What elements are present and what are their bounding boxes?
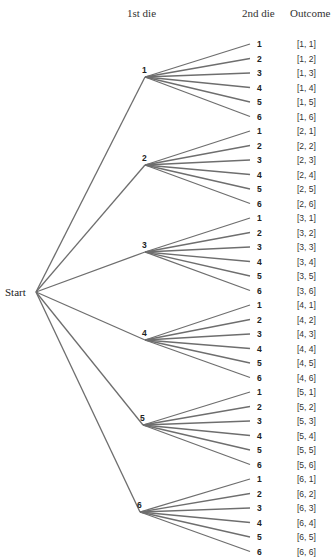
second-die-leaf: 3: [257, 329, 262, 339]
outcome-label: [2, 2]: [297, 141, 316, 151]
tree-diagram: [0, 0, 333, 557]
second-die-leaf: 6: [257, 547, 262, 557]
second-die-leaf: 4: [257, 83, 262, 93]
second-die-leaf: 4: [257, 431, 262, 441]
first-die-node-5: 5: [140, 413, 145, 423]
outcome-label: [5, 3]: [297, 416, 316, 426]
outcome-label: [2, 5]: [297, 184, 316, 194]
branch-line: [145, 340, 250, 349]
outcome-label: [2, 6]: [297, 199, 316, 209]
first-die-node-6: 6: [137, 500, 142, 510]
second-die-leaf: 1: [257, 387, 262, 397]
second-die-leaf: 5: [257, 97, 262, 107]
second-die-leaf: 4: [257, 257, 262, 267]
branch-line: [145, 340, 250, 378]
branch-line: [145, 77, 250, 102]
second-die-leaf: 2: [257, 402, 262, 412]
second-die-leaf: 3: [257, 155, 262, 165]
branch-line: [145, 340, 250, 363]
first-die-node-4: 4: [142, 328, 147, 338]
outcome-label: [2, 4]: [297, 170, 316, 180]
branch-line: [145, 252, 250, 276]
second-die-leaf: 2: [257, 315, 262, 325]
outcome-label: [3, 4]: [297, 257, 316, 267]
first-die-node-1: 1: [142, 65, 147, 75]
outcome-label: [1, 4]: [297, 83, 316, 93]
second-die-leaf: 2: [257, 228, 262, 238]
branch-line: [36, 292, 145, 340]
second-die-leaf: 2: [257, 141, 262, 151]
outcome-label: [5, 2]: [297, 402, 316, 412]
outcome-label: [4, 5]: [297, 358, 316, 368]
branch-line: [145, 252, 250, 262]
outcome-label: [5, 4]: [297, 431, 316, 441]
branch-line: [143, 392, 250, 425]
second-die-leaf: 6: [257, 112, 262, 122]
outcome-label: [4, 3]: [297, 329, 316, 339]
second-die-leaf: 1: [257, 474, 262, 484]
outcome-label: [4, 2]: [297, 315, 316, 325]
second-die-leaf: 6: [257, 460, 262, 470]
second-die-leaf: 1: [257, 126, 262, 136]
outcome-label: [3, 3]: [297, 242, 316, 252]
second-die-leaf: 1: [257, 39, 262, 49]
second-die-leaf: 6: [257, 286, 262, 296]
second-die-leaf: 1: [257, 300, 262, 310]
outcome-label: [6, 4]: [297, 518, 316, 528]
first-die-node-3: 3: [142, 240, 147, 250]
outcome-label: [4, 1]: [297, 300, 316, 310]
outcome-label: [3, 2]: [297, 228, 316, 238]
second-die-leaf: 5: [257, 358, 262, 368]
outcome-label: [6, 2]: [297, 489, 316, 499]
outcome-label: [1, 6]: [297, 112, 316, 122]
second-die-leaf: 2: [257, 54, 262, 64]
second-die-leaf: 3: [257, 503, 262, 513]
second-die-leaf: 5: [257, 271, 262, 281]
second-die-leaf: 5: [257, 532, 262, 542]
branch-line: [143, 425, 250, 465]
branch-line: [140, 512, 250, 552]
outcome-label: [6, 6]: [297, 547, 316, 557]
second-die-leaf: 4: [257, 344, 262, 354]
second-die-leaf: 6: [257, 373, 262, 383]
branch-line: [145, 165, 250, 204]
outcome-label: [1, 2]: [297, 54, 316, 64]
start-label: Start: [5, 286, 26, 298]
outcome-label: [5, 1]: [297, 387, 316, 397]
branch-line: [145, 77, 250, 117]
first-die-node-2: 2: [142, 153, 147, 163]
outcome-label: [5, 6]: [297, 460, 316, 470]
branch-line: [145, 44, 250, 77]
second-die-leaf: 3: [257, 416, 262, 426]
branch-line: [143, 425, 250, 450]
outcome-label: [6, 5]: [297, 532, 316, 542]
outcome-label: [5, 5]: [297, 445, 316, 455]
outcome-label: [4, 6]: [297, 373, 316, 383]
outcome-label: [1, 5]: [297, 97, 316, 107]
outcome-label: [3, 5]: [297, 271, 316, 281]
second-die-leaf: 4: [257, 170, 262, 180]
second-die-leaf: 3: [257, 68, 262, 78]
outcome-label: [3, 1]: [297, 213, 316, 223]
outcome-label: [2, 3]: [297, 155, 316, 165]
outcome-label: [6, 1]: [297, 474, 316, 484]
second-die-leaf: 5: [257, 445, 262, 455]
second-die-leaf: 4: [257, 518, 262, 528]
second-die-leaf: 1: [257, 213, 262, 223]
second-die-leaf: 6: [257, 199, 262, 209]
outcome-label: [2, 1]: [297, 126, 316, 136]
second-die-leaf: 2: [257, 489, 262, 499]
branch-line: [140, 512, 250, 537]
second-die-leaf: 5: [257, 184, 262, 194]
branch-line: [145, 165, 250, 189]
outcome-label: [4, 4]: [297, 344, 316, 354]
outcome-label: [1, 3]: [297, 68, 316, 78]
branch-line: [145, 252, 250, 291]
branch-line: [145, 165, 250, 175]
outcome-label: [6, 3]: [297, 503, 316, 513]
second-die-leaf: 3: [257, 242, 262, 252]
outcome-label: [1, 1]: [297, 39, 316, 49]
outcome-label: [3, 6]: [297, 286, 316, 296]
branch-line: [140, 479, 250, 512]
